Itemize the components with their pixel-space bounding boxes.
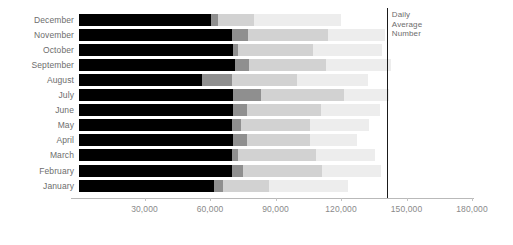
- bar-segment: [79, 89, 233, 101]
- bar-row-label: September: [32, 59, 74, 71]
- bar-segment: [243, 165, 323, 177]
- bar-row: October: [0, 44, 513, 56]
- bar-segment: [297, 74, 368, 86]
- bar-segment: [202, 74, 231, 86]
- bar-segment: [344, 89, 389, 101]
- bar-segment: [321, 104, 380, 116]
- bar-segment: [79, 74, 202, 86]
- bar-segment: [249, 59, 325, 71]
- bar-track: [79, 104, 472, 116]
- bar-track: [79, 165, 472, 177]
- stacked-bar-chart: DecemberNovemberOctoberSeptemberAugustJu…: [0, 0, 513, 245]
- bar-segment: [233, 134, 247, 146]
- bar-segment: [310, 119, 369, 131]
- bar-segment: [232, 165, 243, 177]
- bar-row: June: [0, 104, 513, 116]
- bar-track: [79, 44, 472, 56]
- bar-segment: [79, 29, 232, 41]
- daily-average-reference-line: [387, 8, 388, 198]
- bar-segment: [238, 149, 316, 161]
- bar-segment: [214, 180, 223, 192]
- bar-segment: [328, 29, 385, 41]
- bar-row-label: June: [55, 104, 74, 116]
- bar-segment: [241, 119, 311, 131]
- bar-row-label: April: [56, 134, 74, 146]
- bar-segment: [248, 29, 328, 41]
- x-axis-tick: [145, 198, 146, 201]
- x-axis-line: [71, 198, 474, 199]
- bar-row-label: July: [58, 89, 74, 101]
- x-axis-tick-label: 90,000: [246, 204, 306, 214]
- bar-row: December: [0, 14, 513, 26]
- bar-segment: [79, 180, 214, 192]
- bar-segment: [79, 119, 232, 131]
- bar-segment: [326, 59, 392, 71]
- bar-row: November: [0, 29, 513, 41]
- bar-segment: [316, 149, 375, 161]
- bar-segment: [247, 104, 321, 116]
- bar-row-label: May: [58, 119, 74, 131]
- bar-segment: [79, 134, 233, 146]
- bar-segment: [223, 180, 269, 192]
- bar-segment: [261, 89, 344, 101]
- bar-segment: [310, 134, 357, 146]
- bar-segment: [218, 14, 254, 26]
- bar-segment: [238, 44, 312, 56]
- bar-row: May: [0, 119, 513, 131]
- bar-track: [79, 149, 472, 161]
- bar-segment: [247, 134, 310, 146]
- bar-row-label: October: [43, 44, 74, 56]
- bar-segment: [254, 14, 341, 26]
- bar-row: August: [0, 74, 513, 86]
- bar-segment: [233, 104, 247, 116]
- bar-segment: [269, 180, 348, 192]
- bar-segment: [211, 14, 218, 26]
- bar-row: January: [0, 180, 513, 192]
- bar-row: April: [0, 134, 513, 146]
- x-axis-tick-label: 60,000: [180, 204, 240, 214]
- bar-track: [79, 180, 472, 192]
- bar-segment: [322, 165, 381, 177]
- bar-row-label: December: [34, 14, 74, 26]
- x-axis-tick-label: 30,000: [115, 204, 175, 214]
- bar-track: [79, 59, 472, 71]
- bar-track: [79, 89, 472, 101]
- bar-segment: [79, 59, 235, 71]
- daily-average-annotation: Daily Average Number: [392, 10, 422, 39]
- bar-row: July: [0, 89, 513, 101]
- bar-segment: [79, 44, 233, 56]
- plot-area: DecemberNovemberOctoberSeptemberAugustJu…: [0, 0, 513, 245]
- bar-segment: [232, 29, 248, 41]
- bar-segment: [79, 104, 233, 116]
- bar-segment: [232, 74, 298, 86]
- bar-segment: [233, 89, 261, 101]
- bar-track: [79, 74, 472, 86]
- bar-track: [79, 134, 472, 146]
- bar-segment: [79, 165, 232, 177]
- bar-row: March: [0, 149, 513, 161]
- bar-row-label: March: [50, 149, 74, 161]
- bar-row-label: January: [43, 180, 74, 192]
- bar-segment: [79, 149, 232, 161]
- x-axis-tick: [472, 198, 473, 201]
- bar-segment: [313, 44, 383, 56]
- bar-segment: [232, 119, 241, 131]
- bar-segment: [79, 14, 211, 26]
- x-axis-tick-label: 120,000: [311, 204, 371, 214]
- bar-row-label: November: [34, 29, 74, 41]
- bar-row-label: February: [39, 165, 74, 177]
- bar-row: February: [0, 165, 513, 177]
- x-axis-tick: [407, 198, 408, 201]
- bar-segment: [235, 59, 249, 71]
- x-axis-tick-label: 150,000: [377, 204, 437, 214]
- x-axis-tick: [341, 198, 342, 201]
- x-axis-tick-label: 180,000: [442, 204, 502, 214]
- x-axis-tick: [210, 198, 211, 201]
- bar-track: [79, 119, 472, 131]
- bar-row: September: [0, 59, 513, 71]
- x-axis-tick: [276, 198, 277, 201]
- bar-row-label: August: [47, 74, 74, 86]
